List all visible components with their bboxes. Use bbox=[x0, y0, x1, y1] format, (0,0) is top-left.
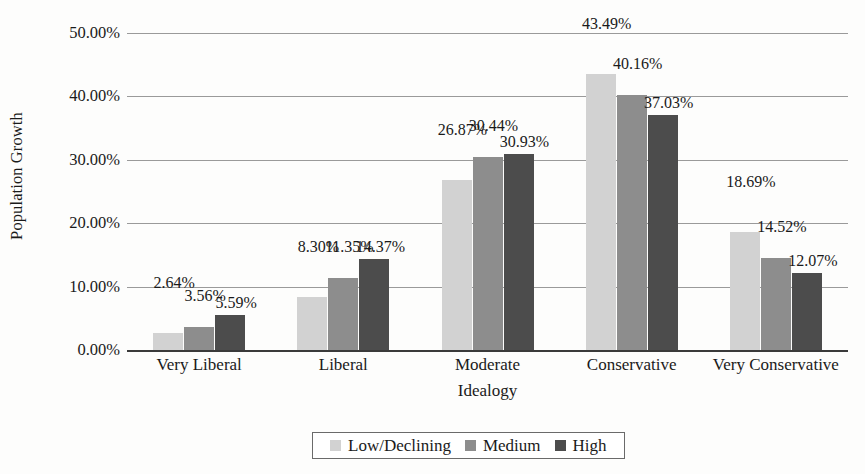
x-tick-label: Very Liberal bbox=[156, 355, 241, 375]
bar bbox=[328, 278, 358, 350]
bar-value-label: 14.52% bbox=[757, 218, 806, 236]
y-tick-label: 0.00% bbox=[8, 340, 120, 360]
x-axis-tick-labels: Very LiberalLiberalModerateConservativeV… bbox=[127, 355, 848, 381]
y-tick-label: 30.00% bbox=[8, 150, 120, 170]
bar bbox=[184, 327, 214, 350]
axis-baseline bbox=[127, 350, 848, 352]
y-tick-label: 50.00% bbox=[8, 23, 120, 43]
bar-chart-figure: Population Growth 0.00%10.00%20.00%30.00… bbox=[0, 0, 865, 474]
legend-item[interactable]: High bbox=[555, 436, 607, 456]
gridline bbox=[127, 96, 848, 97]
legend-label: Low/Declining bbox=[348, 436, 451, 456]
bar-value-label: 18.69% bbox=[726, 173, 775, 191]
bar bbox=[153, 333, 183, 350]
gridline bbox=[127, 33, 848, 34]
bar-value-label: 30.93% bbox=[500, 133, 549, 151]
legend-swatch-icon bbox=[465, 440, 476, 451]
bar bbox=[442, 180, 472, 350]
chart-legend: Low/DecliningMediumHigh bbox=[312, 432, 625, 459]
y-axis-tick-labels: 0.00%10.00%20.00%30.00%40.00%50.00% bbox=[0, 33, 120, 350]
bar bbox=[473, 157, 503, 350]
bar-value-label: 40.16% bbox=[613, 55, 662, 73]
bar bbox=[359, 259, 389, 350]
y-tick-label: 20.00% bbox=[8, 213, 120, 233]
bar bbox=[297, 297, 327, 350]
x-tick-label: Liberal bbox=[319, 355, 368, 375]
x-tick-label: Conservative bbox=[587, 355, 677, 375]
legend-label: Medium bbox=[483, 436, 541, 456]
bar-value-label: 12.07% bbox=[788, 252, 837, 270]
y-tick-label: 10.00% bbox=[8, 277, 120, 297]
bar bbox=[215, 315, 245, 350]
legend-swatch-icon bbox=[330, 440, 341, 451]
bar bbox=[761, 258, 791, 350]
bar-value-label: 43.49% bbox=[582, 15, 631, 33]
x-tick-label: Moderate bbox=[455, 355, 520, 375]
x-axis-title: Idealogy bbox=[127, 381, 848, 401]
bar bbox=[648, 115, 678, 350]
bar bbox=[617, 95, 647, 350]
bar-value-label: 37.03% bbox=[644, 94, 693, 112]
bar bbox=[792, 273, 822, 350]
legend-label: High bbox=[573, 436, 607, 456]
bar bbox=[504, 154, 534, 350]
legend-swatch-icon bbox=[555, 440, 566, 451]
bar bbox=[586, 74, 616, 350]
x-tick-label: Very Conservative bbox=[713, 355, 839, 375]
plot-area: 2.64%3.56%5.59%8.30%11.35%14.37%26.87%30… bbox=[127, 33, 848, 350]
bar bbox=[730, 232, 760, 350]
bar-value-label: 5.59% bbox=[215, 294, 256, 312]
legend-item[interactable]: Low/Declining bbox=[330, 436, 451, 456]
bar-value-label: 14.37% bbox=[356, 238, 405, 256]
y-tick-label: 40.00% bbox=[8, 86, 120, 106]
legend-item[interactable]: Medium bbox=[465, 436, 541, 456]
